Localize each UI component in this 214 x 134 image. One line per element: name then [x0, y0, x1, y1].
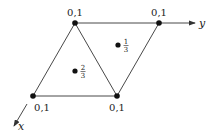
- vertex-label: 0,1: [67, 7, 83, 18]
- interior-points: 1323: [72, 38, 128, 80]
- vertex-label: 0,1: [34, 102, 50, 113]
- upper-triangle-point: [115, 42, 120, 47]
- edges: [33, 23, 159, 96]
- vertex-bottom-right: [114, 93, 120, 99]
- fraction-numerator: 2: [81, 64, 85, 72]
- fraction-denominator: 3: [124, 46, 128, 54]
- x-axis-label: x: [18, 120, 25, 133]
- vertex-top-left: [72, 20, 78, 26]
- edge-left: [33, 23, 75, 96]
- vertex-bottom-left: [30, 93, 36, 99]
- parallelogram-diagram: 0,10,10,10,1 1323 y x: [0, 0, 214, 134]
- y-axis-label: y: [198, 17, 206, 30]
- fraction-denominator: 3: [81, 72, 85, 80]
- edge-right: [117, 23, 159, 96]
- fraction-numerator: 1: [124, 38, 128, 46]
- lower-triangle-point: [72, 68, 77, 73]
- vertex-label: 0,1: [151, 7, 167, 18]
- edge-diagonal: [75, 23, 117, 96]
- vertex-label: 0,1: [109, 102, 125, 113]
- vertex-top-right: [156, 20, 162, 26]
